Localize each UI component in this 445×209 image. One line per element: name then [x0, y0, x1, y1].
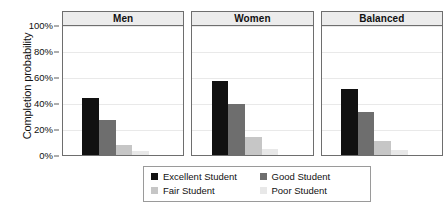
panel-strip-label: Women	[191, 11, 313, 26]
bar-fair-student	[116, 145, 133, 155]
bar-fair-student	[374, 141, 391, 155]
bar-excellent-student	[212, 81, 229, 155]
bar-good-student	[228, 104, 245, 155]
legend-label: Good Student	[272, 170, 331, 183]
panel-strip-label: Men	[62, 11, 184, 26]
legend-item: Fair Student	[151, 184, 256, 197]
y-axis-tick-label: 20%	[34, 125, 53, 135]
legend-label: Poor Student	[272, 184, 327, 197]
legend-swatch-icon	[260, 173, 267, 180]
chart-legend: Excellent StudentGood StudentFair Studen…	[143, 166, 371, 202]
bar-good-student	[99, 120, 116, 155]
y-axis-tick-label: 40%	[34, 99, 53, 109]
legend-swatch-icon	[151, 187, 158, 194]
bar-excellent-student	[341, 89, 358, 155]
y-axis: 100%80%60%40%20%0%	[0, 0, 62, 209]
bar-group	[322, 26, 442, 155]
bar-poor-student	[391, 150, 408, 155]
bar-group	[63, 26, 183, 155]
legend-swatch-icon	[260, 187, 267, 194]
y-axis-tick-mark	[54, 130, 59, 131]
y-axis-tick-mark	[54, 104, 59, 105]
panel-plot-area	[321, 26, 443, 156]
legend-label: Excellent Student	[163, 170, 237, 183]
y-axis-tick-mark	[54, 26, 59, 27]
panel-plot-area	[191, 26, 313, 156]
y-axis-tick-label: 60%	[34, 73, 53, 83]
y-axis-tick-label: 100%	[29, 21, 53, 31]
chart-panel-women: Women	[191, 11, 313, 156]
bar-group	[192, 26, 312, 155]
panel-row: MenWomenBalanced	[62, 11, 443, 156]
bar-poor-student	[262, 149, 279, 156]
legend-item: Poor Student	[260, 184, 365, 197]
bar-good-student	[358, 112, 375, 155]
panel-strip-label: Balanced	[321, 11, 443, 26]
chart-panel-balanced: Balanced	[321, 11, 443, 156]
bar-poor-student	[132, 151, 149, 155]
y-axis-tick-mark	[54, 156, 59, 157]
legend-label: Fair Student	[163, 184, 215, 197]
chart-panel-men: Men	[62, 11, 184, 156]
legend-item: Excellent Student	[151, 170, 256, 183]
bar-chart: Completion probability 100%80%60%40%20%0…	[0, 0, 445, 209]
legend-swatch-icon	[151, 173, 158, 180]
y-axis-tick-label: 80%	[34, 47, 53, 57]
panel-plot-area	[62, 26, 184, 156]
y-axis-tick-mark	[54, 52, 59, 53]
legend-item: Good Student	[260, 170, 365, 183]
y-axis-tick-label: 0%	[39, 151, 53, 161]
bar-fair-student	[245, 137, 262, 155]
y-axis-tick-mark	[54, 78, 59, 79]
bar-excellent-student	[82, 98, 99, 155]
